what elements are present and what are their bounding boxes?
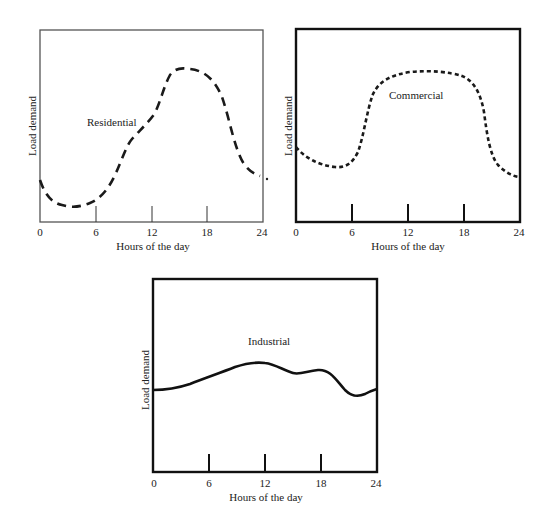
y-axis-label: Load demand <box>26 95 38 156</box>
x-axis-label: Hours of the day <box>229 491 303 503</box>
svg-text:24: 24 <box>514 226 526 238</box>
industrial-chart: Industrial Load demand 0 6 12 18 24 Hour… <box>130 260 390 517</box>
svg-text:18: 18 <box>316 477 328 489</box>
industrial-label: Industrial <box>248 335 290 347</box>
x-ticks <box>96 206 207 222</box>
svg-text:12: 12 <box>147 226 158 238</box>
svg-text:6: 6 <box>93 226 99 238</box>
svg-text:12: 12 <box>403 226 414 238</box>
residential-label: Residential <box>87 116 137 128</box>
commercial-label: Commercial <box>389 89 443 101</box>
svg-text:0: 0 <box>293 226 299 238</box>
x-axis-label: Hours of the day <box>371 240 445 252</box>
x-ticks <box>352 204 464 222</box>
svg-text:0: 0 <box>151 477 157 489</box>
x-tick-labels: 0 6 12 18 24 <box>151 477 382 489</box>
plot-frame <box>40 30 263 222</box>
svg-text:24: 24 <box>257 226 269 238</box>
x-tick-labels: 0 6 12 18 24 <box>37 226 268 238</box>
svg-text:24: 24 <box>371 477 383 489</box>
plot-frame <box>153 279 377 472</box>
industrial-load-curve <box>153 363 377 396</box>
y-axis-label: Load demand <box>139 349 151 410</box>
x-axis-label: Hours of the day <box>116 240 190 252</box>
residential-chart: Residential Load demand 0 6 12 18 24 Hou… <box>0 0 275 255</box>
x-tick-labels: 0 6 12 18 24 <box>293 226 525 238</box>
commercial-load-curve <box>296 71 519 177</box>
residential-load-curve <box>40 68 260 206</box>
y-axis-label: Load demand <box>282 95 294 156</box>
svg-text:0: 0 <box>37 226 43 238</box>
svg-text:18: 18 <box>459 226 471 238</box>
stray-dot <box>266 178 268 180</box>
svg-text:12: 12 <box>260 477 271 489</box>
svg-text:6: 6 <box>206 477 212 489</box>
commercial-chart: Commercial Load demand 0 6 12 18 24 Hour… <box>275 0 550 255</box>
svg-text:18: 18 <box>202 226 214 238</box>
x-ticks <box>209 454 321 472</box>
svg-text:6: 6 <box>349 226 355 238</box>
